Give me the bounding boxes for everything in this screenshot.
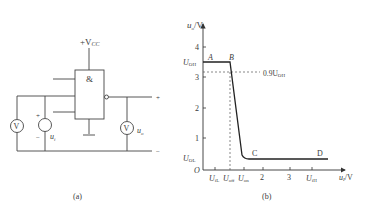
caption-b: (b) bbox=[262, 192, 272, 201]
x-axis-label: uI/V bbox=[339, 173, 353, 182]
threshold-label: 0.9UOH bbox=[263, 69, 285, 78]
point-a: A bbox=[207, 53, 213, 62]
origin-label: O bbox=[194, 166, 200, 175]
gate-symbol: & bbox=[86, 74, 93, 84]
x-tick-3: 3 bbox=[287, 173, 291, 182]
uoh-label: UOH bbox=[183, 58, 196, 67]
uol-label: UOL bbox=[183, 154, 195, 163]
input-source bbox=[39, 119, 52, 132]
source-plus: + bbox=[36, 112, 40, 120]
vcc-label: +VCC bbox=[80, 37, 101, 47]
voltmeter-label: V bbox=[14, 122, 20, 131]
output-minus: − bbox=[156, 148, 160, 156]
transfer-chart bbox=[203, 24, 345, 170]
output-voltage-label: uo bbox=[137, 126, 144, 136]
source-minus: − bbox=[36, 134, 40, 142]
point-d: D bbox=[317, 149, 323, 158]
input-voltage-label: ui bbox=[50, 132, 56, 142]
x-mark-uon: Uon bbox=[238, 174, 249, 183]
x-tick-2: 2 bbox=[260, 173, 264, 182]
output-plus: + bbox=[156, 94, 160, 102]
figure: +VCC & V V + − ui uo + − (a) uo/V 4 bbox=[0, 0, 374, 211]
x-mark-uoff: Uoff bbox=[223, 174, 235, 183]
y-tick-4: 4 bbox=[195, 43, 199, 52]
caption-a: (a) bbox=[73, 192, 82, 201]
y-tick-1: 1 bbox=[195, 134, 199, 143]
voltmeter-label: V bbox=[124, 124, 130, 133]
point-b: B bbox=[229, 53, 234, 62]
x-mark-uil: UiL bbox=[209, 174, 219, 183]
x-mark-uih: UiH bbox=[306, 174, 317, 183]
y-axis-label: uo/V bbox=[187, 20, 204, 31]
point-c: C bbox=[252, 149, 257, 158]
y-tick-3: 3 bbox=[195, 73, 199, 82]
y-tick-2: 2 bbox=[195, 104, 199, 113]
circuit-diagram bbox=[11, 48, 153, 151]
